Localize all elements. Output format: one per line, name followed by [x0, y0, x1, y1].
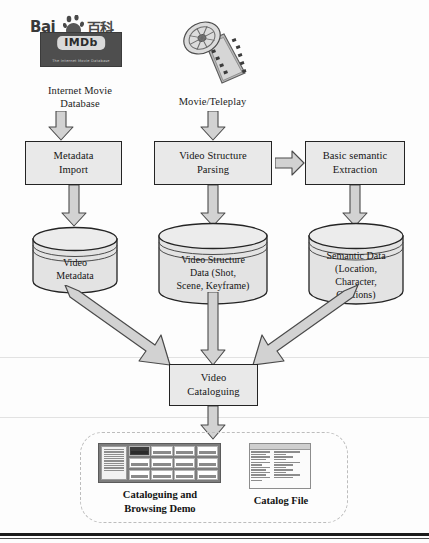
demo-grid-cell — [151, 458, 172, 468]
parsing-line2: Parsing — [179, 163, 247, 177]
film-reel-icon — [176, 16, 248, 86]
caption-catalog-file: Catalog File — [240, 494, 322, 508]
demo-caption-line2: Browsing Demo — [90, 502, 230, 516]
caption-cataloguing-browsing-demo: Cataloguing and Browsing Demo — [90, 488, 230, 516]
demo-grid-cell — [197, 458, 218, 468]
demo-grid-cell — [129, 446, 150, 456]
catalog-file-left-column — [250, 450, 272, 489]
arrow-video-metadata-to-cataloguing — [60, 285, 185, 375]
source-label-movie: Movie/Teleplay — [150, 95, 275, 108]
demo-grid-cell — [174, 458, 195, 468]
imdb-badge-text: IMDb — [57, 36, 105, 50]
process-box-video-cataloguing[interactable]: Video Cataloguing — [169, 364, 258, 406]
arrow-imdb-to-metadata-import — [48, 111, 74, 141]
demo-thumbnail-grid — [127, 446, 218, 480]
figure-canvas: Bai 百科 IMDb The Internet Movie Database … — [0, 0, 429, 543]
extraction-line2: Extraction — [323, 163, 388, 177]
demo-caption-line1: Cataloguing and — [90, 488, 230, 502]
datastore-video-metadata[interactable]: Video Metadata — [31, 226, 119, 294]
arrow-extraction-to-semantic-data — [342, 185, 368, 227]
metadata-import-line1: Metadata — [54, 149, 94, 163]
parsing-line1: Video Structure — [179, 149, 247, 163]
imdb-logo-icon: IMDb The Internet Movie Database — [40, 32, 122, 67]
demo-grid-cell — [174, 470, 195, 480]
arrow-structure-data-to-cataloguing — [200, 292, 226, 366]
process-box-video-structure-parsing[interactable]: Video Structure Parsing — [154, 141, 272, 185]
demo-grid-cell — [197, 470, 218, 480]
demo-grid-cell — [129, 470, 150, 480]
demo-grid-cell — [174, 446, 195, 456]
process-box-basic-semantic-extraction[interactable]: Basic semantic Extraction — [305, 141, 405, 185]
arrow-parsing-to-extraction — [275, 149, 305, 177]
demo-grid-cell — [129, 458, 150, 468]
demo-grid-cell — [197, 446, 218, 456]
thumbnail-catalog-file[interactable] — [249, 443, 311, 489]
arrow-metadata-import-to-video-metadata — [61, 185, 87, 227]
catalog-file-right-column — [272, 450, 310, 489]
demo-grid-cell — [151, 470, 172, 480]
arrow-semantic-data-to-cataloguing — [238, 285, 363, 375]
page-bottom-rule — [0, 533, 429, 536]
catalog-file-body — [250, 450, 310, 489]
cylinder-shape — [31, 226, 119, 294]
arrow-movie-to-parsing — [200, 111, 226, 141]
imdb-tagline: The Internet Movie Database — [41, 59, 121, 63]
source-label-imdb: Internet Movie Database — [12, 84, 148, 110]
catalog-file-caption-line1: Catalog File — [240, 494, 322, 508]
demo-grid-cell — [151, 446, 172, 456]
arrow-parsing-to-structure-data — [200, 185, 226, 227]
thumbnail-cataloguing-browsing-demo[interactable] — [98, 443, 221, 483]
cataloguing-line2: Cataloguing — [187, 385, 239, 399]
page-bottom-rule-thin — [0, 538, 429, 539]
metadata-import-line2: Import — [54, 163, 94, 177]
process-box-metadata-import[interactable]: Metadata Import — [25, 141, 122, 185]
demo-sidebar — [101, 446, 127, 480]
extraction-line1: Basic semantic — [323, 149, 388, 163]
imdb-logo-group: Bai 百科 IMDb The Internet Movie Database — [26, 14, 134, 72]
cataloguing-line1: Video — [187, 371, 239, 385]
